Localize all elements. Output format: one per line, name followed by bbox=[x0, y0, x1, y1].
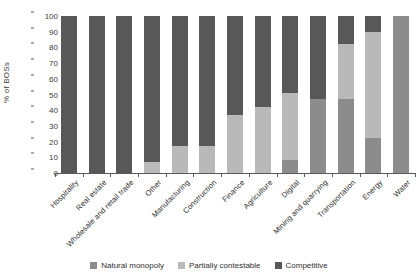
bar-transportation bbox=[338, 16, 354, 173]
bar-segment-partially-contestable bbox=[365, 32, 381, 139]
x-tick-mark bbox=[360, 173, 361, 177]
x-axis-line bbox=[55, 173, 415, 174]
y-tick-label: 90 bbox=[34, 27, 58, 36]
y-tick-label: 70 bbox=[34, 59, 58, 68]
legend-label: Competitive bbox=[286, 261, 328, 270]
bar-construction bbox=[199, 16, 215, 173]
x-axis-label-energy: Energy bbox=[361, 178, 385, 202]
x-axis-label-water: Water bbox=[392, 178, 413, 199]
legend-swatch-icon bbox=[275, 262, 282, 269]
bar-manufacturing bbox=[172, 16, 188, 173]
bar-segment-competitive bbox=[255, 16, 271, 107]
y-tick-mark bbox=[31, 74, 34, 75]
y-tick-mark bbox=[31, 12, 34, 13]
bar-segment-competitive bbox=[365, 16, 381, 32]
bar-segment-natural-monopoly bbox=[393, 16, 409, 173]
bar-segment-partially-contestable bbox=[282, 93, 298, 161]
y-tick-mark bbox=[31, 90, 34, 91]
bar-segment-competitive bbox=[116, 16, 132, 173]
bar-hospitality bbox=[61, 16, 77, 173]
y-tick-mark bbox=[31, 121, 34, 122]
bar-mining-and-quarrying bbox=[310, 16, 326, 173]
x-tick-mark bbox=[83, 173, 84, 177]
y-axis-title: % of BOSs bbox=[2, 62, 14, 103]
y-tick-mark bbox=[31, 106, 34, 107]
legend-item-natural-monopoly: Natural monopoly bbox=[90, 261, 164, 270]
x-axis-label-other: Other bbox=[143, 178, 163, 198]
bar-other bbox=[144, 16, 160, 173]
y-tick-mark bbox=[31, 43, 34, 44]
y-tick-label: 30 bbox=[34, 121, 58, 130]
y-tick-label: 20 bbox=[34, 137, 58, 146]
bar-agriculture bbox=[255, 16, 271, 173]
legend-swatch-icon bbox=[90, 262, 97, 269]
legend-item-competitive: Competitive bbox=[275, 261, 328, 270]
x-tick-mark bbox=[166, 173, 167, 177]
bar-segment-competitive bbox=[61, 16, 77, 173]
bar-digital bbox=[282, 16, 298, 173]
bar-segment-natural-monopoly bbox=[310, 99, 326, 173]
bar-segment-partially-contestable bbox=[144, 162, 160, 173]
y-tick-label: 50 bbox=[34, 90, 58, 99]
x-axis-label-finance: Finance bbox=[220, 178, 246, 204]
x-tick-mark bbox=[415, 173, 416, 177]
bar-segment-natural-monopoly bbox=[282, 160, 298, 173]
bar-water bbox=[393, 16, 409, 173]
bar-segment-partially-contestable bbox=[255, 107, 271, 173]
y-tick-label: 10 bbox=[34, 153, 58, 162]
chart-legend: Natural monopolyPartially contestableCom… bbox=[0, 261, 418, 270]
y-tick-label: 40 bbox=[34, 106, 58, 115]
legend-swatch-icon bbox=[178, 262, 185, 269]
y-tick-label: 100 bbox=[34, 12, 58, 21]
x-tick-mark bbox=[332, 173, 333, 177]
bar-segment-partially-contestable bbox=[172, 146, 188, 173]
bar-segment-partially-contestable bbox=[338, 44, 354, 99]
legend-label: Natural monopoly bbox=[101, 261, 164, 270]
x-tick-mark bbox=[55, 173, 56, 177]
y-tick-label: 80 bbox=[34, 43, 58, 52]
bar-segment-competitive bbox=[89, 16, 105, 173]
y-tick-mark bbox=[31, 137, 34, 138]
y-tick-mark bbox=[31, 169, 34, 170]
bar-segment-natural-monopoly bbox=[365, 138, 381, 173]
x-tick-mark bbox=[387, 173, 388, 177]
legend-item-partially-contestable: Partially contestable bbox=[178, 261, 261, 270]
bar-segment-competitive bbox=[338, 16, 354, 44]
x-tick-mark bbox=[193, 173, 194, 177]
y-tick-mark bbox=[31, 153, 34, 154]
x-tick-mark bbox=[249, 173, 250, 177]
x-tick-mark bbox=[110, 173, 111, 177]
x-tick-mark bbox=[138, 173, 139, 177]
bar-real-estate bbox=[89, 16, 105, 173]
plot-area: 0102030405060708090100 bbox=[55, 16, 415, 173]
bar-segment-natural-monopoly bbox=[338, 99, 354, 173]
bar-segment-competitive bbox=[199, 16, 215, 146]
legend-label: Partially contestable bbox=[189, 261, 261, 270]
stacked-bar-chart: % of BOSs 0102030405060708090100 Hospita… bbox=[0, 0, 418, 276]
x-tick-mark bbox=[221, 173, 222, 177]
y-tick-mark bbox=[31, 59, 34, 60]
bar-wholesale-and-retail-trade bbox=[116, 16, 132, 173]
bar-segment-competitive bbox=[227, 16, 243, 115]
bar-segment-competitive bbox=[144, 16, 160, 162]
bar-finance bbox=[227, 16, 243, 173]
y-tick-mark bbox=[31, 27, 34, 28]
bar-segment-competitive bbox=[172, 16, 188, 146]
y-tick-label: 60 bbox=[34, 74, 58, 83]
x-tick-mark bbox=[277, 173, 278, 177]
x-axis-label-agriculture: Agriculture bbox=[241, 178, 274, 211]
bar-segment-competitive bbox=[282, 16, 298, 93]
bar-energy bbox=[365, 16, 381, 173]
bar-segment-partially-contestable bbox=[227, 115, 243, 173]
x-axis-label-digital: Digital bbox=[280, 178, 302, 200]
bar-segment-partially-contestable bbox=[199, 146, 215, 173]
x-tick-mark bbox=[304, 173, 305, 177]
bar-segment-competitive bbox=[310, 16, 326, 99]
